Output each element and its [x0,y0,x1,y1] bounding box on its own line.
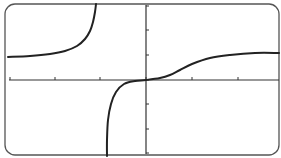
right-branch-curve [107,53,279,156]
left-branch-curve [8,4,96,57]
function-plot [0,0,281,158]
